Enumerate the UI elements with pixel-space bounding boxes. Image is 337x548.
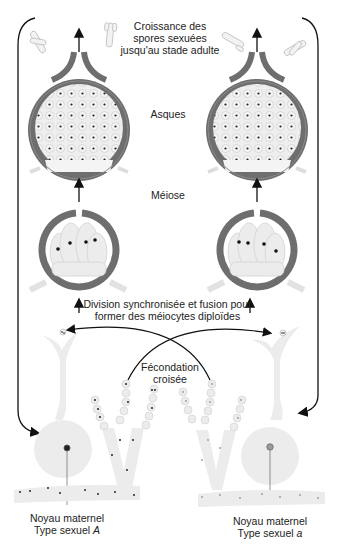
mating-type-prefix: Type sexuel <box>238 527 297 539</box>
asci-label: Asques <box>138 108 198 120</box>
mating-type-a: a <box>297 527 303 539</box>
perithecium-mature-left <box>28 52 130 181</box>
division-label: Division synchronisée et fusion pour for… <box>80 298 255 322</box>
fertilization-label-line2: croisée <box>135 373 205 385</box>
life-cycle-diagram <box>0 0 337 548</box>
meiosis-label: Méiose <box>138 189 198 201</box>
perithecium-mature-right <box>206 52 308 181</box>
left-nucleus-line2: Type sexuel A <box>22 524 112 536</box>
left-nucleus-label: Noyau maternel Type sexuel A <box>22 512 112 536</box>
fertilization-label-line1: Fécondation <box>135 361 205 373</box>
growth-label-line1: Croissance des <box>110 20 230 32</box>
protoperithecium-left <box>34 329 92 505</box>
mating-type-A: A <box>93 524 100 536</box>
left-nucleus-line1: Noyau maternel <box>22 512 112 524</box>
right-nucleus-line1: Noyau maternel <box>225 515 315 527</box>
growth-label: Croissance des spores sexuées jusqu'au s… <box>110 20 230 56</box>
growth-label-line3: jusqu'au stade adulte <box>110 44 230 56</box>
division-label-line1: Division synchronisée et fusion pour <box>80 298 255 310</box>
right-nucleus-label: Noyau maternel Type sexuel a <box>225 515 315 539</box>
division-label-line2: former des méiocytes diploïdes <box>80 310 255 322</box>
right-nucleus-line2: Type sexuel a <box>225 527 315 539</box>
protoperithecium-right <box>241 326 300 505</box>
growth-label-line2: spores sexuées <box>110 32 230 44</box>
fertilization-label: Fécondation croisée <box>135 361 205 385</box>
mating-type-prefix: Type sexuel <box>34 524 93 536</box>
perithecium-young-right <box>208 213 304 290</box>
perithecium-young-left <box>30 213 126 290</box>
